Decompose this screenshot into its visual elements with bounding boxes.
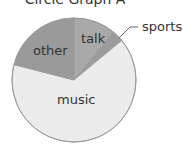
label-other: other [33,43,68,58]
label-talk: talk [81,31,106,46]
pie-chart: talk sports music other [0,0,183,144]
label-music: music [57,92,95,107]
sports-leader-line [119,27,130,38]
label-sports: sports [142,19,182,34]
pie-slices [12,18,136,142]
circle-graph: Circle Graph A talk sports music other [0,0,183,144]
